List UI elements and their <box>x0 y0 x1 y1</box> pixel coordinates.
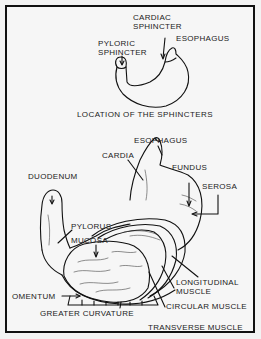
label-esophagus: ESOPHAGUS <box>134 136 187 145</box>
label-duodenum: DUODENUM <box>28 172 78 181</box>
label-circular-muscle: CIRCULAR MUSCLE <box>166 302 247 311</box>
label-omentum: OMENTUM <box>12 292 55 301</box>
label-greater-curvature: GREATER CURVATURE <box>40 309 134 318</box>
label-mucosa: MUCOSA <box>71 236 108 245</box>
label-serosa: SEROSA <box>202 182 237 191</box>
label-longitudinal-muscle-line1: LONGITUDINAL <box>176 278 239 287</box>
label-pyloric-sphincter-line1: PYLORIC <box>98 39 135 48</box>
label-esophagus-top: ESOPHAGUS <box>176 34 229 43</box>
label-cardiac-sphincter-line2: SPHINCTER <box>133 22 182 31</box>
label-pyloric-sphincter-line2: SPHINCTER <box>98 48 147 57</box>
label-cardiac-sphincter-line1: CARDIAC <box>133 13 171 22</box>
label-pylorus: PYLORUS <box>71 222 111 231</box>
label-cardia: CARDIA <box>102 151 134 160</box>
label-fundus: FUNDUS <box>172 163 207 172</box>
label-transverse-muscle: TRANSVERSE MUSCLE <box>148 323 243 332</box>
label-longitudinal-muscle-line2: MUSCLE <box>176 287 211 296</box>
caption-location-of-sphincters: LOCATION OF THE SPHINCTERS <box>77 110 213 119</box>
